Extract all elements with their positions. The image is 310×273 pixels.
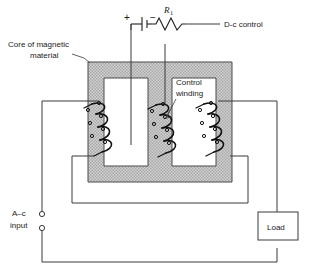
ac-input-terminal-top bbox=[39, 211, 44, 216]
dc-control-label: D-c control bbox=[224, 20, 263, 29]
battery-negative-label: − bbox=[150, 12, 156, 23]
ac-input-label-line2: input bbox=[10, 221, 28, 230]
battery-positive-label: + bbox=[124, 12, 130, 23]
core-label-line1: Core of magnetic bbox=[8, 40, 69, 49]
core-label-leader bbox=[72, 54, 90, 63]
core-of-magnetic-material bbox=[88, 62, 232, 182]
battery-symbol bbox=[131, 17, 152, 31]
control-winding-label-line2: winding bbox=[175, 89, 203, 98]
load-label: Load bbox=[267, 223, 285, 232]
control-winding-label-line1: Control bbox=[176, 78, 202, 87]
resistor-label: R bbox=[163, 5, 170, 15]
diagram-canvas: + − R 1 D-c control bbox=[0, 0, 310, 273]
ac-input-label-line1: A–c bbox=[12, 209, 26, 218]
ac-input-terminal-bottom bbox=[39, 225, 44, 230]
core-label-line2: material bbox=[30, 51, 59, 60]
resistor-subscript-label: 1 bbox=[170, 9, 173, 16]
resistor-R1 bbox=[152, 18, 186, 30]
magnetic-amplifier-diagram: + − R 1 D-c control bbox=[0, 0, 310, 273]
ac-input-terminals bbox=[39, 211, 44, 230]
